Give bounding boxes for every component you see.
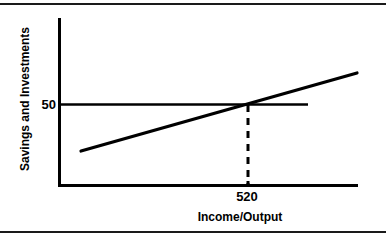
figure-container: 50 520 Income/Output Savings and Investm… [0, 0, 386, 244]
investments-line [81, 73, 357, 151]
plot-area [0, 0, 386, 244]
y-axis-tick-label-50: 50 [30, 98, 56, 111]
bottom-horizontal-rule [0, 231, 386, 233]
x-axis-tick-label-520: 520 [212, 190, 282, 203]
chart-canvas [0, 0, 386, 244]
x-axis-title: Income/Output [175, 211, 305, 223]
y-axis-title: Savings and Investments [19, 24, 31, 174]
